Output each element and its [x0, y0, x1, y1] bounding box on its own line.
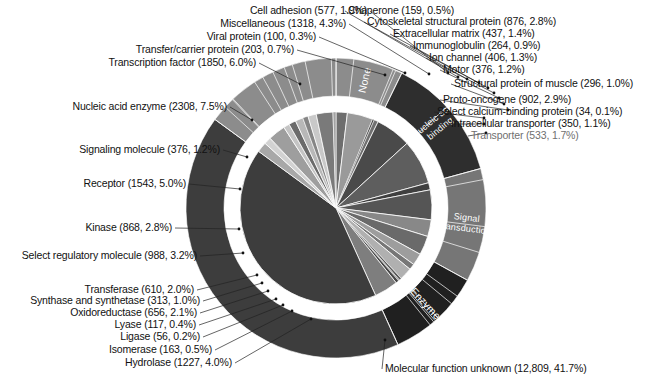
pie-chart-svg: NoneNucleic acidbindingSignaltransductio… — [0, 0, 662, 378]
slice-callout-label: Miscellaneous (1318, 4.3%) — [220, 18, 346, 29]
slice-callout-label: Ion channel (406, 1.3%) — [429, 52, 537, 63]
slice-callout-label: Transfer/carrier protein (203, 0.7%) — [136, 44, 294, 55]
slice-callout-label: Molecular function unknown (12,809, 41.7… — [385, 363, 587, 374]
pie-slices — [240, 112, 432, 304]
slice-callout-label: Signaling molecule (376, 1.2%) — [79, 144, 220, 155]
leader-arrowhead — [239, 188, 242, 191]
slice-callout-label: Extracellular matrix (437, 1.4%) — [393, 28, 535, 39]
leader-arrowhead — [282, 304, 285, 307]
slice-callout-label: Cytoskeletal structural protein (876, 2.… — [367, 16, 556, 27]
slice-callout-label: Synthase and synthetase (313, 1.0%) — [30, 295, 200, 306]
slice-callout-label: Transcription factor (1850, 6.0%) — [108, 57, 256, 68]
slice-callout-label: Intracellular transporter (350, 1.1%) — [451, 118, 611, 129]
slice-callout-label: Hydrolase (1227, 4.0%) — [125, 357, 232, 368]
leader-arrowhead — [256, 274, 259, 277]
leader-arrowhead — [251, 119, 254, 122]
slice-callout-label: Viral protein (100, 0.3%) — [207, 31, 316, 42]
slice-callout-label: Select regulatory molecule (988, 3.2%) — [22, 250, 197, 261]
leader-arrowhead — [275, 298, 278, 301]
leader-arrowhead — [404, 72, 407, 75]
leader-arrowhead — [310, 318, 313, 321]
slice-callout-label: Select calcium-binding protein (34, 0.1%… — [437, 106, 622, 117]
slice-callout-label: Oxidoreductase (656, 2.1%) — [70, 307, 197, 318]
slice-callout-label: Immunoglobulin (264, 0.9%) — [413, 40, 540, 51]
slice-callout-label: Lyase (117, 0.4%) — [115, 319, 197, 330]
slice-callout-label: Motor (376, 1.2%) — [443, 64, 525, 75]
pie-chart-figure: NoneNucleic acidbindingSignaltransductio… — [0, 0, 662, 378]
leader-arrowhead — [267, 290, 270, 293]
leader-arrowhead — [384, 339, 387, 342]
leader-arrowhead — [299, 83, 302, 86]
slice-callout-label: Isomerase (163, 0.5%) — [109, 344, 212, 355]
slice-callout-label: Proto-oncogene (902, 2.9%) — [443, 94, 571, 105]
leader-arrowhead — [384, 74, 387, 77]
leader-arrowhead — [238, 228, 241, 231]
leader-arrowhead — [261, 282, 264, 285]
leader-arrowhead — [242, 252, 245, 255]
slice-callout-label: Transporter (533, 1.7%) — [471, 130, 579, 141]
leader-arrowhead — [246, 156, 249, 159]
slice-callout-label: Nucleic acid enzyme (2308, 7.5%) — [72, 101, 227, 112]
slice-callout-label: Receptor (1543, 5.0%) — [84, 178, 187, 189]
slice-callout-label: Structural protein of muscle (296, 1.0%) — [454, 78, 633, 89]
leader-arrowhead — [291, 310, 294, 313]
slice-callout-label: Ligase (56, 0.2%) — [120, 331, 200, 342]
slice-callout-label: Kinase (868, 2.8%) — [85, 222, 172, 233]
leader-arrowhead — [428, 73, 431, 76]
